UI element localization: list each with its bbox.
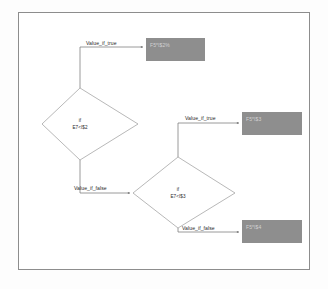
connector-true-1 — [80, 47, 143, 88]
decision-node-2 — [133, 157, 235, 228]
process-box-2-text: F5*I$3 — [246, 117, 261, 122]
process-box-1-text: F5*I$2% — [150, 43, 170, 48]
edge-label-false-2: Value_if_false — [182, 226, 215, 231]
process-box-3-text: F5*I$4 — [246, 225, 261, 230]
diagram-canvas: if E7<I$2 if E7<I$3 Value_if_true Value_… — [0, 0, 328, 289]
edge-label-true-2: Value_if_true — [185, 116, 216, 121]
edge-label-true-1: Value_if_true — [86, 41, 117, 46]
connector-true-2 — [178, 123, 239, 157]
edge-label-false-1: Value_if_false — [74, 186, 107, 191]
decision-node-1 — [42, 88, 138, 160]
